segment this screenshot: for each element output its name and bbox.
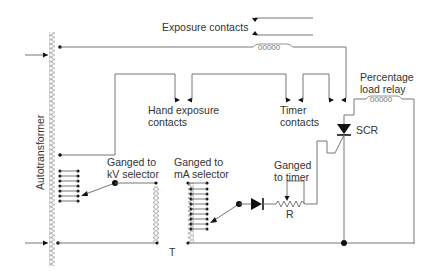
timer-contacts-label-2: contacts <box>280 116 319 128</box>
percentage-load-relay-label-2: load relay <box>360 83 406 95</box>
ganged-ma-label-2: mA selector <box>174 168 229 180</box>
transformer-label: T <box>169 246 175 258</box>
hand-exposure-contacts-label-2: contacts <box>148 116 187 128</box>
ganged-timer-label-2: to timer <box>274 171 309 183</box>
timer-contacts-label-1: Timer <box>280 104 306 116</box>
circuit-diagram: 00000 00000 <box>0 0 436 274</box>
hand-exposure-contacts-label-1: Hand exposure <box>148 104 219 116</box>
resistor-label: R <box>286 208 294 220</box>
scr-label: SCR <box>356 124 378 136</box>
ganged-ma-label-1: Ganged to <box>174 156 223 168</box>
ma-selector <box>186 181 414 246</box>
svg-text:00000: 00000 <box>370 95 393 104</box>
autotransformer-label: Autotransformer <box>34 115 46 190</box>
transformer-t <box>56 186 159 245</box>
ganged-kv-label-2: kV selector <box>107 168 159 180</box>
percentage-load-relay: 00000 <box>354 95 414 244</box>
percentage-load-relay-label-1: Percentage <box>360 71 414 83</box>
autotransformer-coil <box>49 32 55 266</box>
ganged-timer-label-1: Ganged <box>274 159 311 171</box>
variable-resistor <box>276 181 305 207</box>
exposure-contacts-label: Exposure contacts <box>162 21 248 33</box>
diode <box>239 198 276 210</box>
exposure-contacts <box>252 18 313 35</box>
svg-text:00000: 00000 <box>258 43 281 52</box>
ganged-kv-label-1: Ganged to <box>107 156 156 168</box>
circuit-schematic: 00000 00000 <box>0 0 436 274</box>
scr <box>305 115 354 243</box>
